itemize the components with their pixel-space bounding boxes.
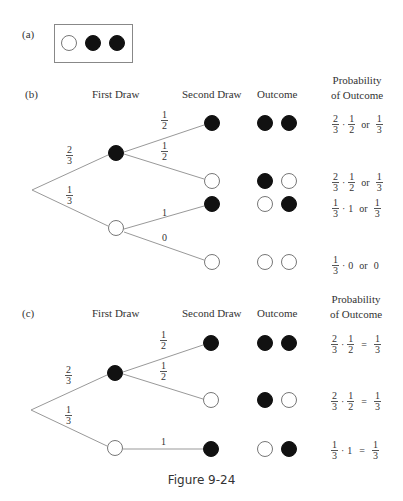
outcome-ball-black <box>257 173 273 189</box>
edge-prob-white: 13 <box>66 185 73 206</box>
panel-a-label: (a) <box>22 28 34 40</box>
header-outcome: Outcome <box>257 307 297 319</box>
outcome-probability-wb: 13 · 1 or 13 <box>332 198 381 219</box>
outcome-ball-black <box>281 196 297 212</box>
header-probability: Probability of Outcome <box>327 73 387 103</box>
outcome-ball-white <box>281 173 297 189</box>
header-second-draw: Second Draw <box>182 307 242 319</box>
header-probability-line2: of Outcome <box>327 88 387 103</box>
urn-ball-white <box>61 35 77 51</box>
outcome-probability-ww: 13 · 0 or 0 <box>332 255 379 276</box>
header-first-draw: First Draw <box>92 88 139 100</box>
outcome-probability-bw: 23 · 12 = 13 <box>331 391 381 412</box>
first-draw-black <box>108 145 124 161</box>
second-draw-black <box>203 335 219 351</box>
edge-prob-bw: 12 <box>161 141 168 162</box>
panel-c-label: (c) <box>22 307 34 319</box>
urn-ball-black <box>85 35 101 51</box>
header-probability-line2: of Outcome <box>326 307 386 322</box>
edge-prob-bw: 12 <box>160 361 167 382</box>
edge-prob-bb: 12 <box>160 330 167 351</box>
outcome-ball-white <box>257 196 273 212</box>
outcome-ball-black <box>257 335 273 351</box>
first-draw-black <box>107 365 123 381</box>
edge-prob-black: 23 <box>65 365 72 386</box>
outcome-ball-black <box>257 392 273 408</box>
outcome-ball-black <box>281 115 297 131</box>
second-draw-white <box>203 392 219 408</box>
outcome-probability-bb: 23 · 12 = 13 <box>331 334 381 355</box>
second-draw-black <box>203 441 219 457</box>
header-first-draw: First Draw <box>92 307 139 319</box>
outcome-ball-black <box>281 441 297 457</box>
figure-caption: Figure 9-24 <box>0 473 403 487</box>
outcome-ball-black <box>257 115 273 131</box>
header-second-draw: Second Draw <box>182 88 242 100</box>
outcome-ball-white <box>281 254 297 270</box>
outcome-probability-bb: 23 · 12 or 13 <box>332 114 383 135</box>
edge-prob-black: 23 <box>66 145 73 166</box>
header-probability-line1: Probability <box>326 292 386 307</box>
outcome-ball-white <box>257 254 273 270</box>
second-draw-black <box>204 196 220 212</box>
second-draw-white <box>204 173 220 189</box>
panel-b-label: (b) <box>25 88 38 100</box>
edge-prob-bb: 12 <box>161 110 168 131</box>
edge-prob-white: 13 <box>65 405 72 426</box>
edge-prob-ww: 0 <box>162 232 167 243</box>
second-draw-white <box>204 254 220 270</box>
outcome-ball-white <box>257 441 273 457</box>
header-probability: Probability of Outcome <box>326 292 386 322</box>
outcome-probability-wb: 13 · 1 = 13 <box>331 440 379 461</box>
header-outcome: Outcome <box>257 88 297 100</box>
outcome-ball-white <box>281 392 297 408</box>
urn-ball-black <box>109 35 125 51</box>
edge-prob-wb: 1 <box>161 436 166 447</box>
first-draw-white <box>107 440 123 456</box>
second-draw-black <box>204 115 220 131</box>
first-draw-white <box>108 220 124 236</box>
header-probability-line1: Probability <box>327 73 387 88</box>
outcome-probability-bw: 23 · 12 or 13 <box>332 172 383 193</box>
outcome-ball-black <box>281 335 297 351</box>
edge-prob-wb: 1 <box>162 207 167 218</box>
